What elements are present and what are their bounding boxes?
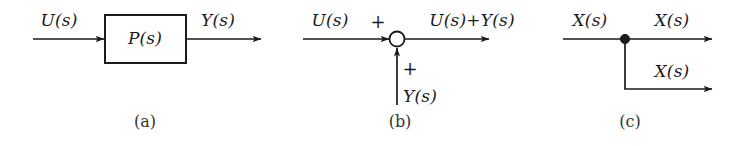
- panel-a-input-label: U(s): [40, 12, 77, 29]
- panel-c-output-label-top: X(s): [655, 12, 690, 29]
- panel-b-group: [303, 32, 489, 106]
- branch-point-dot: [620, 34, 629, 43]
- panel-c-output-label-bottom: X(s): [655, 63, 690, 80]
- panel-c-group: [563, 34, 712, 89]
- panel-a-output-label: Y(s): [201, 12, 235, 29]
- panel-b-secondary-sign: +: [402, 60, 417, 78]
- block-diagram-figure: U(s) P(s) Y(s) (a) U(s) + U(s)+Y(s) + Y(…: [0, 0, 733, 146]
- panel-b-caption: (b): [389, 114, 412, 130]
- panel-b-output-label: U(s)+Y(s): [429, 12, 515, 29]
- panel-b-secondary-input-label: Y(s): [403, 88, 437, 105]
- summing-junction-circle: [390, 32, 405, 47]
- panel-b-input-label: U(s): [311, 12, 348, 29]
- panel-c-caption: (c): [619, 114, 640, 130]
- panel-a-caption: (a): [134, 114, 156, 130]
- panel-a-block-label: P(s): [128, 30, 162, 47]
- panel-b-input-sign: +: [370, 13, 385, 31]
- panel-c-input-label: X(s): [573, 12, 608, 29]
